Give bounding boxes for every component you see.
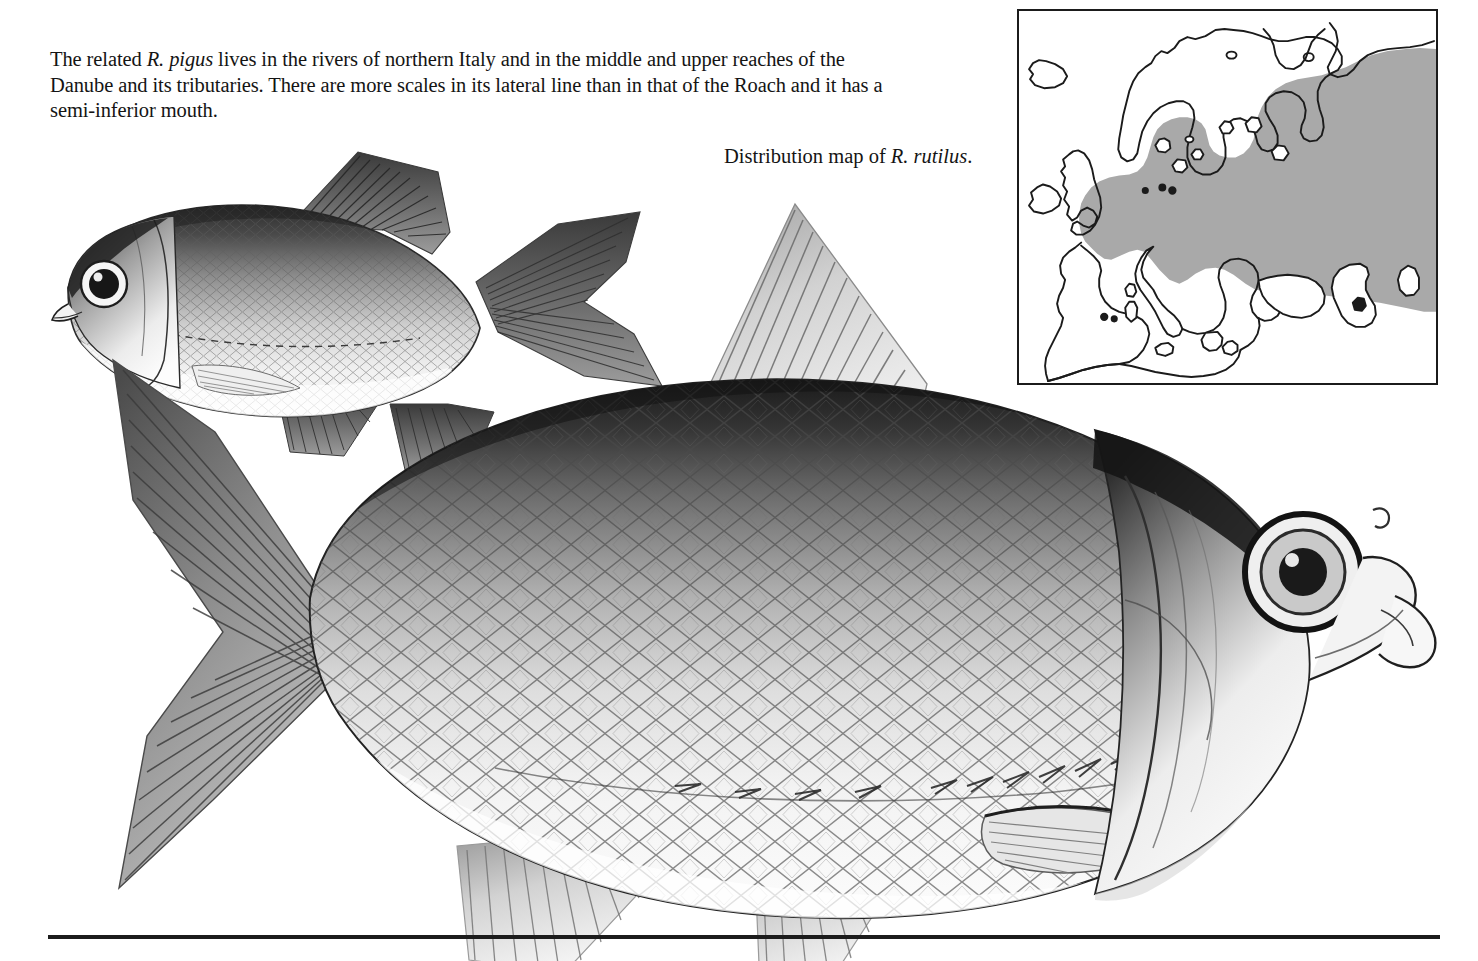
map-island-e: [1226, 52, 1236, 59]
map-caption-lead: Distribution map of: [724, 145, 891, 167]
page-canvas: The related R. pigus lives in the rivers…: [0, 0, 1478, 961]
footer-rule: [48, 935, 1440, 939]
lower-fish-head: [1093, 430, 1435, 901]
map-outline-lake-b: [1172, 159, 1187, 172]
lower-fish-caudal-fin: [113, 360, 339, 888]
map-island-d: [1185, 136, 1193, 142]
species-name-rutilus: R. rutilus: [891, 145, 967, 167]
body-paragraph: The related R. pigus lives in the rivers…: [50, 47, 890, 124]
lower-fish-nostril: [1373, 508, 1389, 527]
map-caption-trail: .: [967, 145, 972, 167]
species-name-pigus: R. pigus: [147, 48, 213, 70]
illustration-lower-fish: [95, 180, 1455, 940]
map-outline-lake-f: [1272, 145, 1289, 160]
map-outline-lake-a: [1155, 138, 1170, 152]
map-caption: Distribution map of R. rutilus.: [724, 144, 972, 169]
map-outline-lake-c: [1191, 149, 1203, 159]
lower-fish-svg: [95, 180, 1455, 940]
body-text-lead: The related: [50, 48, 147, 70]
